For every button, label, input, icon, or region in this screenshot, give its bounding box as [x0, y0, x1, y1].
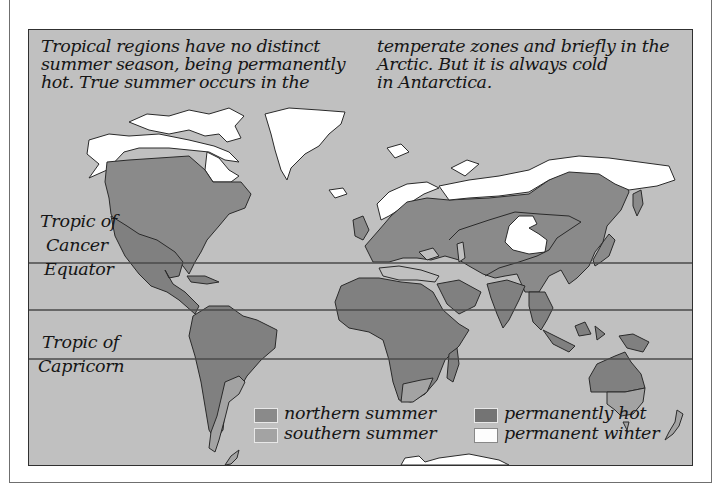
caption-line: Tropical regions have no distinct	[41, 37, 371, 55]
tropic-of-cancer-label-line2: Cancer	[46, 235, 108, 255]
outer-frame-bottom	[9, 482, 712, 483]
southern-summer-swatch	[254, 428, 278, 443]
australia-north	[589, 352, 645, 392]
outer-frame-left	[9, 0, 10, 483]
caption-line: hot. True summer occurs in the	[41, 73, 371, 91]
caribbean	[187, 276, 219, 284]
caption-right: temperate zones and briefly in the Arcti…	[377, 37, 677, 91]
legend-label: northern summer	[284, 403, 436, 423]
caspian-sea	[457, 242, 465, 262]
british-isles	[353, 216, 369, 240]
northern-summer-swatch	[254, 408, 278, 423]
new-zealand	[665, 410, 683, 440]
india	[487, 280, 525, 328]
novaya-zemlya	[451, 160, 479, 176]
new-guinea	[619, 334, 649, 352]
kamchatka	[633, 190, 643, 216]
antarctica	[401, 454, 509, 465]
tropic-of-cancer-label-line1: Tropic of	[40, 211, 117, 231]
tropic-of-capricorn-label-line2: Capricorn	[38, 356, 124, 376]
iceland	[329, 188, 347, 198]
caption-line: temperate zones and briefly in the	[377, 37, 677, 55]
permanent-winter-swatch	[474, 428, 498, 443]
arabia	[437, 280, 481, 314]
outer-frame-right	[711, 0, 712, 483]
world-map	[29, 30, 692, 465]
legend-label: permanent winter	[504, 423, 659, 443]
svalbard	[387, 144, 409, 158]
caption-left: Tropical regions have no distinct summer…	[41, 37, 371, 91]
caption-line: summer season, being permanently	[41, 55, 371, 73]
permanently-hot-swatch	[474, 408, 498, 423]
greenland	[265, 108, 345, 180]
world-map-panel: Tropical regions have no distinct summer…	[28, 29, 693, 466]
equator-label: Equator	[44, 259, 114, 279]
antarctic-peninsula	[225, 450, 239, 465]
caption-line: Arctic. But it is always cold	[377, 55, 677, 73]
caption-line: in Antarctica.	[377, 73, 677, 91]
legend-label: southern summer	[284, 423, 436, 443]
southeast-asia	[529, 292, 553, 330]
tropic-of-capricorn-label-line1: Tropic of	[42, 332, 119, 352]
legend-label: permanently hot	[504, 403, 646, 423]
indonesia	[543, 322, 605, 352]
